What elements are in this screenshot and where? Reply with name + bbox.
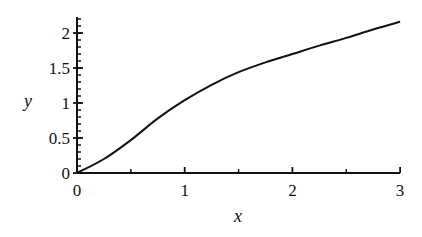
y-tick-label: 1 [62,94,71,113]
x-axis-label: x [233,206,242,226]
y-tick-label: 1.5 [49,59,70,78]
ticks [73,19,400,173]
chart-canvas: 00.511.520123 x y [0,0,422,237]
y-axis-label: y [22,91,32,111]
y-tick-label: 2 [62,24,71,43]
x-tick-label: 3 [396,181,405,200]
x-tick-label: 0 [73,181,82,200]
y-tick-label: 0.5 [49,129,70,148]
axes [77,17,400,173]
y-tick-label: 0 [62,164,71,183]
data-line [77,22,400,173]
x-tick-label: 2 [288,181,297,200]
line-chart: 00.511.520123 x y [0,0,422,237]
x-tick-label: 1 [180,181,189,200]
